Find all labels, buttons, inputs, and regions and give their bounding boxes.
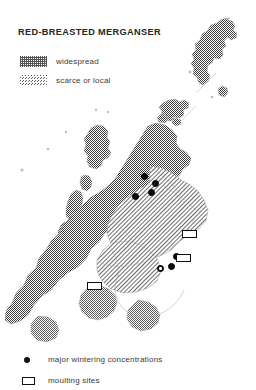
page-title: RED-BREASTED MERGANSER: [18, 27, 161, 37]
rect-aberdeenshire-coast: [182, 230, 197, 238]
dot-moray-firth-east: [152, 180, 159, 187]
legend-label-scarce-or-local: scarce or local: [56, 76, 111, 85]
map-figure: RED-BREASTED MERGANSER widespread scarce…: [0, 0, 256, 390]
legend-item-scarce-or-local: scarce or local: [20, 73, 111, 87]
checker-dense-pattern-swatch-icon: [20, 56, 47, 67]
dot-moray-firth-north: [141, 173, 148, 180]
shetland-islands: [191, 18, 237, 97]
legend-symbols: major wintering concentrations moulting …: [22, 352, 163, 390]
legend-distribution: widespread scarce or local: [20, 54, 111, 92]
legend-label-widespread: widespread: [56, 57, 99, 66]
southern-uplands: [31, 286, 160, 342]
legend-item-wintering: major wintering concentrations: [22, 352, 163, 367]
dot-firth-of-forth-mid: [168, 263, 175, 270]
dot-moray-firth-inner: [148, 189, 155, 196]
orkney-islands: [157, 99, 189, 126]
legend-item-widespread: widespread: [20, 54, 111, 68]
dot-beauly-firth: [132, 193, 139, 200]
filled-circle-icon: [22, 357, 40, 363]
rect-inner-hebrides: [87, 282, 102, 290]
diagonal-hatch-pattern-swatch-icon: [20, 75, 47, 86]
legend-label-moulting: moulting sites: [48, 376, 100, 385]
dot-firth-of-forth-west: [157, 265, 164, 272]
legend-item-moulting: moulting sites: [22, 373, 163, 388]
open-rectangle-icon: [22, 377, 40, 385]
rect-firth-of-tay-coast: [176, 254, 191, 262]
legend-label-wintering: major wintering concentrations: [48, 355, 163, 364]
